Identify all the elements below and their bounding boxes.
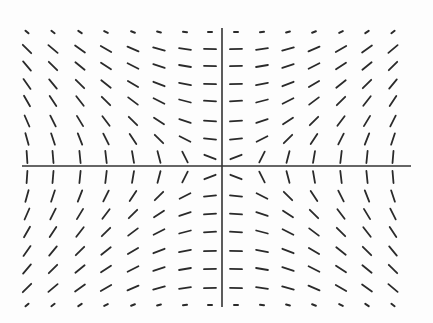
- slope-segment: [365, 304, 368, 306]
- slope-segment: [102, 228, 110, 236]
- slope-segment: [128, 47, 139, 52]
- slope-segment: [284, 135, 292, 143]
- slope-segment: [131, 31, 135, 32]
- slope-segment: [78, 190, 82, 201]
- slope-segment: [157, 32, 161, 33]
- slope-segment: [204, 101, 216, 102]
- slope-segment: [180, 193, 191, 198]
- slope-segment: [204, 155, 215, 159]
- slope-segment: [309, 81, 319, 87]
- slope-segment: [230, 175, 241, 179]
- slope-segment: [179, 231, 191, 234]
- slope-segment: [50, 96, 57, 106]
- slope-segment: [75, 285, 85, 292]
- slope-segment: [309, 266, 320, 271]
- slope-segment: [25, 190, 28, 202]
- slope-segment: [365, 31, 368, 33]
- slope-segment: [78, 31, 81, 33]
- slope-segment: [132, 171, 134, 183]
- slope-segment: [48, 45, 57, 53]
- slope-segment: [179, 250, 191, 252]
- slope-segment: [256, 287, 268, 289]
- slope-segment: [391, 304, 394, 306]
- slope-segment: [282, 286, 294, 289]
- slope-segment: [256, 268, 268, 270]
- slope-segment: [49, 79, 57, 88]
- slope-segment: [282, 267, 293, 271]
- slope-segment: [154, 211, 164, 218]
- slope-segment: [391, 190, 395, 201]
- slope-segment: [337, 209, 344, 219]
- slope-segment: [105, 151, 106, 163]
- slope-segment: [158, 171, 161, 183]
- slope-segment: [337, 97, 345, 105]
- slope-segment: [366, 151, 367, 163]
- slope-segment: [179, 100, 191, 103]
- slope-segment: [76, 227, 83, 236]
- slope-segment: [25, 209, 30, 220]
- slope-segment: [230, 101, 242, 102]
- slope-segment: [53, 171, 54, 183]
- slope-segment: [25, 116, 30, 127]
- slope-segment: [362, 285, 372, 292]
- slope-segment: [364, 209, 370, 219]
- slope-segment: [389, 79, 397, 88]
- slope-segment: [153, 47, 165, 50]
- slope-segment: [389, 265, 397, 273]
- slope-segment: [75, 62, 84, 70]
- slope-segment: [230, 232, 242, 233]
- slope-segment: [182, 152, 187, 163]
- slope-segment: [78, 304, 81, 306]
- slope-segment: [104, 31, 108, 33]
- slope-segment: [389, 62, 397, 70]
- slope-segment: [312, 31, 316, 32]
- slope-segment: [283, 98, 294, 103]
- slope-segment: [24, 246, 31, 256]
- slope-segment: [23, 61, 31, 70]
- slope-segment: [313, 171, 315, 183]
- slope-segment: [256, 119, 267, 123]
- slope-segment: [312, 304, 316, 305]
- slope-segment: [339, 304, 343, 306]
- slope-segment: [390, 209, 395, 220]
- slope-segment: [309, 228, 319, 235]
- slope-segment: [130, 134, 137, 144]
- slope-segment: [25, 133, 28, 145]
- slope-segment: [154, 229, 165, 234]
- slope-segment: [128, 97, 138, 104]
- slope-segment: [101, 46, 111, 52]
- slope-segment: [336, 266, 346, 273]
- slope-segment: [23, 264, 31, 273]
- slope-segment: [204, 214, 216, 215]
- slope-segment: [259, 152, 264, 163]
- slope-segment: [204, 195, 216, 196]
- slope-segment: [283, 229, 294, 234]
- slope-segment: [129, 117, 137, 125]
- slope-segment: [157, 305, 161, 306]
- slope-segment: [230, 138, 242, 139]
- slope-segment: [79, 151, 80, 163]
- slope-segment: [179, 48, 191, 50]
- slope-segment: [48, 284, 57, 292]
- slope-segment: [49, 246, 57, 255]
- slope-segment: [153, 267, 164, 271]
- slope-segment: [230, 195, 242, 196]
- slope-segment: [366, 171, 367, 183]
- slope-segment: [336, 63, 346, 70]
- slope-segment: [24, 79, 31, 89]
- slope-segment: [76, 96, 83, 105]
- slope-segment: [388, 284, 397, 292]
- slope-segment: [75, 46, 85, 53]
- slope-segment: [309, 248, 319, 254]
- slope-segment: [155, 135, 163, 143]
- slope-segment: [103, 134, 108, 145]
- slope-segment: [313, 151, 315, 163]
- slope-segment: [259, 172, 264, 183]
- slope-segment: [204, 232, 216, 233]
- slope-segment: [128, 286, 139, 291]
- slope-segment: [154, 118, 164, 125]
- slope-segment: [153, 286, 165, 289]
- slope-segment: [364, 116, 370, 126]
- slope-segment: [336, 285, 346, 291]
- slope-segment: [204, 121, 216, 122]
